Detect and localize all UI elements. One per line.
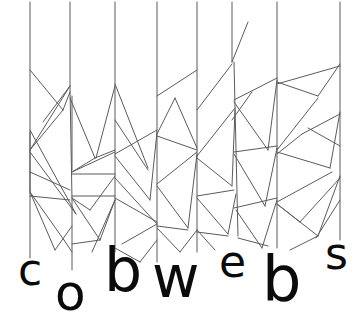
strand-42: [157, 226, 188, 230]
strand-69: [302, 114, 340, 134]
strand-48: [232, 110, 235, 186]
strand-47: [197, 158, 232, 186]
strand-53: [234, 78, 277, 100]
strand-58: [265, 148, 277, 206]
strand-65: [277, 66, 340, 84]
strand-50: [197, 198, 228, 234]
strand-11: [55, 226, 72, 250]
strand-33: [122, 224, 157, 244]
strand-20: [72, 198, 100, 240]
strand-70: [277, 134, 302, 154]
strand-41: [188, 154, 197, 228]
strand-55: [268, 80, 277, 150]
strand-46: [197, 108, 235, 156]
strand-35: [140, 240, 157, 262]
strand-40: [157, 186, 188, 228]
strand-80: [157, 70, 197, 96]
web-strands-group: [30, 64, 340, 262]
strand-44: [180, 230, 197, 252]
strand-51: [228, 194, 236, 234]
vertical-thread-6-diagonal: [232, 22, 248, 62]
strand-67: [277, 152, 330, 168]
strand-26: [115, 84, 148, 168]
strand-12: [64, 240, 72, 252]
strand-49: [197, 190, 234, 196]
cobwebs-artwork: c o b w e b s: [0, 0, 364, 325]
strand-24: [90, 176, 115, 210]
cobweb-lines-svg: [0, 0, 364, 325]
strand-32: [115, 178, 157, 224]
strand-39: [157, 152, 197, 184]
strand-77: [316, 200, 340, 238]
strand-3: [30, 110, 63, 150]
strand-57: [234, 154, 265, 206]
strand-29: [115, 156, 150, 200]
strand-82: [197, 64, 232, 110]
strand-28: [115, 130, 157, 154]
strand-36: [157, 98, 175, 134]
strand-68: [330, 112, 340, 168]
strand-79: [30, 172, 70, 190]
strand-66: [277, 98, 318, 150]
strand-61: [262, 200, 277, 248]
strand-34: [115, 248, 140, 262]
strand-25: [72, 198, 90, 210]
strand-6: [30, 152, 76, 214]
strand-23: [92, 200, 115, 252]
strand-76: [290, 236, 318, 250]
strand-60: [236, 210, 262, 248]
strand-71: [277, 172, 332, 202]
strand-75: [277, 204, 300, 222]
strand-1: [30, 70, 63, 110]
strand-56: [234, 146, 277, 152]
strand-63: [277, 82, 318, 96]
strand-10: [30, 192, 55, 250]
strand-74: [300, 178, 340, 222]
strand-43: [157, 228, 180, 252]
strand-59: [234, 198, 277, 208]
strand-38: [157, 136, 197, 150]
strand-30: [150, 132, 157, 200]
strand-37: [175, 98, 197, 148]
strand-14: [70, 98, 95, 158]
strand-27: [96, 86, 115, 158]
